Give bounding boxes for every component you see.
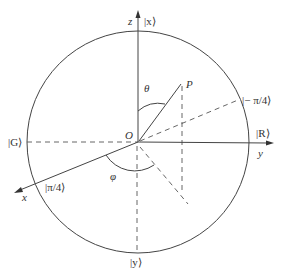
state-upper-right-label: |− π/4⟩	[242, 94, 271, 106]
state-right-label: |R⟩	[256, 127, 270, 139]
x-axis	[20, 142, 138, 190]
state-bottom-label: |y⟩	[130, 256, 142, 268]
y-axis-arrowhead	[266, 141, 274, 146]
origin-label: O	[125, 129, 133, 141]
state-top-label: |x⟩	[144, 15, 156, 27]
state-left-label: |G⟩	[8, 136, 22, 148]
phi-arc	[106, 155, 154, 171]
point-p-label: P	[185, 78, 193, 90]
state-lower-left-label: |π/4⟩	[45, 181, 65, 193]
phi-label: φ	[110, 170, 116, 182]
sphere-diagram: z |x⟩ θ P |− π/4⟩ O |G⟩ |R⟩ y φ |π/4⟩ x …	[0, 0, 290, 279]
x-axis-label: x	[21, 191, 27, 203]
dashed-projection-diagonal	[140, 147, 188, 204]
y-axis-label: y	[257, 147, 263, 159]
theta-label: θ	[144, 82, 150, 94]
theta-arc	[138, 103, 165, 111]
z-axis-arrowhead	[136, 10, 141, 18]
z-axis-label: z	[127, 15, 133, 27]
